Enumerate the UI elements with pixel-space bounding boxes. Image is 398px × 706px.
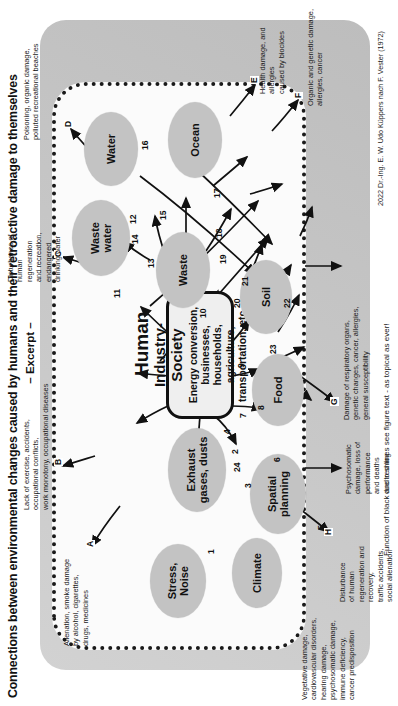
poster-canvas: Connections between environmental change… bbox=[0, 0, 398, 706]
node-label: Soil bbox=[260, 287, 272, 307]
figure-rotation-wrapper: Connections between environmental change… bbox=[0, 0, 398, 706]
edge-number: 9 bbox=[236, 363, 246, 368]
annotation-health-damage-biocides: Health damage, and allergies caused by b… bbox=[258, 2, 286, 94]
node-label: Spatial planning bbox=[266, 471, 290, 517]
annotation-disturbance-regeneration-water: Disturbance of human regeneration and re… bbox=[6, 196, 63, 282]
edge-number: 21 bbox=[240, 276, 250, 286]
annotation-lack-of-exercise: Lack of exercise, accidents, occupationa… bbox=[22, 358, 50, 510]
edge-number: 12 bbox=[128, 214, 138, 224]
edge-number: 19 bbox=[218, 254, 228, 264]
edge-number: 24 bbox=[232, 462, 242, 472]
edge-number: 10 bbox=[198, 308, 208, 318]
node-ocean[interactable]: Ocean bbox=[168, 102, 222, 178]
node-waste-water[interactable]: Waste water bbox=[72, 200, 130, 276]
edge-number: 6 bbox=[272, 457, 282, 462]
figure-credit: 2022 Dr.-Ing. E. W. Udo Küppers nach F. … bbox=[376, 31, 385, 206]
node-food[interactable]: Food bbox=[252, 354, 304, 426]
boundary-tag-d: D bbox=[64, 120, 73, 128]
annotation-organic-genetic-damage: Organic and genetic damage, allergies, c… bbox=[306, 6, 325, 106]
node-label: Stress, Noise bbox=[166, 563, 190, 600]
node-label: Waste bbox=[177, 254, 189, 286]
edge-number: 7 bbox=[238, 413, 248, 418]
human-label: Human bbox=[131, 312, 153, 376]
node-label: Water bbox=[105, 134, 117, 164]
edge-number: 1 bbox=[206, 549, 216, 554]
edge-number: 13 bbox=[146, 258, 156, 268]
edge-number: 4 bbox=[222, 429, 232, 434]
figure-headline: Connections between environmental change… bbox=[6, 8, 20, 698]
node-soil[interactable]: Soil bbox=[240, 260, 292, 334]
node-stress-noise[interactable]: Stress, Noise bbox=[150, 544, 206, 618]
node-label: Ocean bbox=[189, 123, 201, 157]
edge-number: 2 bbox=[230, 449, 240, 454]
node-label: Waste water bbox=[89, 222, 113, 254]
edge-number: 11 bbox=[112, 289, 122, 298]
central-system-title: Industry-Society bbox=[151, 302, 185, 408]
node-climate[interactable]: Climate bbox=[232, 538, 282, 608]
edge-number: 15 bbox=[158, 210, 168, 220]
node-label: Climate bbox=[251, 553, 263, 593]
edge-number: 18 bbox=[214, 228, 224, 238]
edge-number: 23 bbox=[268, 344, 278, 354]
edge-number: 17 bbox=[212, 188, 222, 198]
annotation-poisoning-beaches: Poisoning, organic damage, polluted recr… bbox=[22, 12, 41, 140]
boundary-tag-b: B bbox=[54, 458, 63, 466]
node-exhaust-gases-dusts[interactable]: Exhaust gases, dusts bbox=[168, 428, 226, 512]
edge-number: 14 bbox=[130, 234, 140, 244]
boundary-tag-f: F bbox=[294, 92, 303, 99]
boundary-tag-h: H bbox=[324, 528, 333, 536]
edge-number: 20 bbox=[232, 298, 242, 308]
edge-number: 22 bbox=[282, 298, 292, 308]
annotation-respiratory-damage: Damage of respiratory organs, genetic ch… bbox=[342, 264, 370, 420]
node-label: Food bbox=[272, 377, 284, 404]
edge-number: 3 bbox=[243, 483, 253, 488]
node-label: Exhaust gases, dusts bbox=[185, 437, 209, 504]
node-waste[interactable]: Waste bbox=[156, 232, 210, 308]
edge-number: 8 bbox=[256, 405, 266, 410]
annotation-alienation-smoke: Alienation, smoke damage by alcohol, cig… bbox=[62, 526, 90, 646]
node-water[interactable]: Water bbox=[84, 112, 138, 186]
figure-caption: Function of black and red lines see figu… bbox=[382, 323, 391, 556]
edge-number: 16 bbox=[140, 140, 150, 150]
node-spatial-planning[interactable]: Spatial planning bbox=[250, 454, 306, 534]
boundary-tag-g: G bbox=[330, 397, 339, 406]
